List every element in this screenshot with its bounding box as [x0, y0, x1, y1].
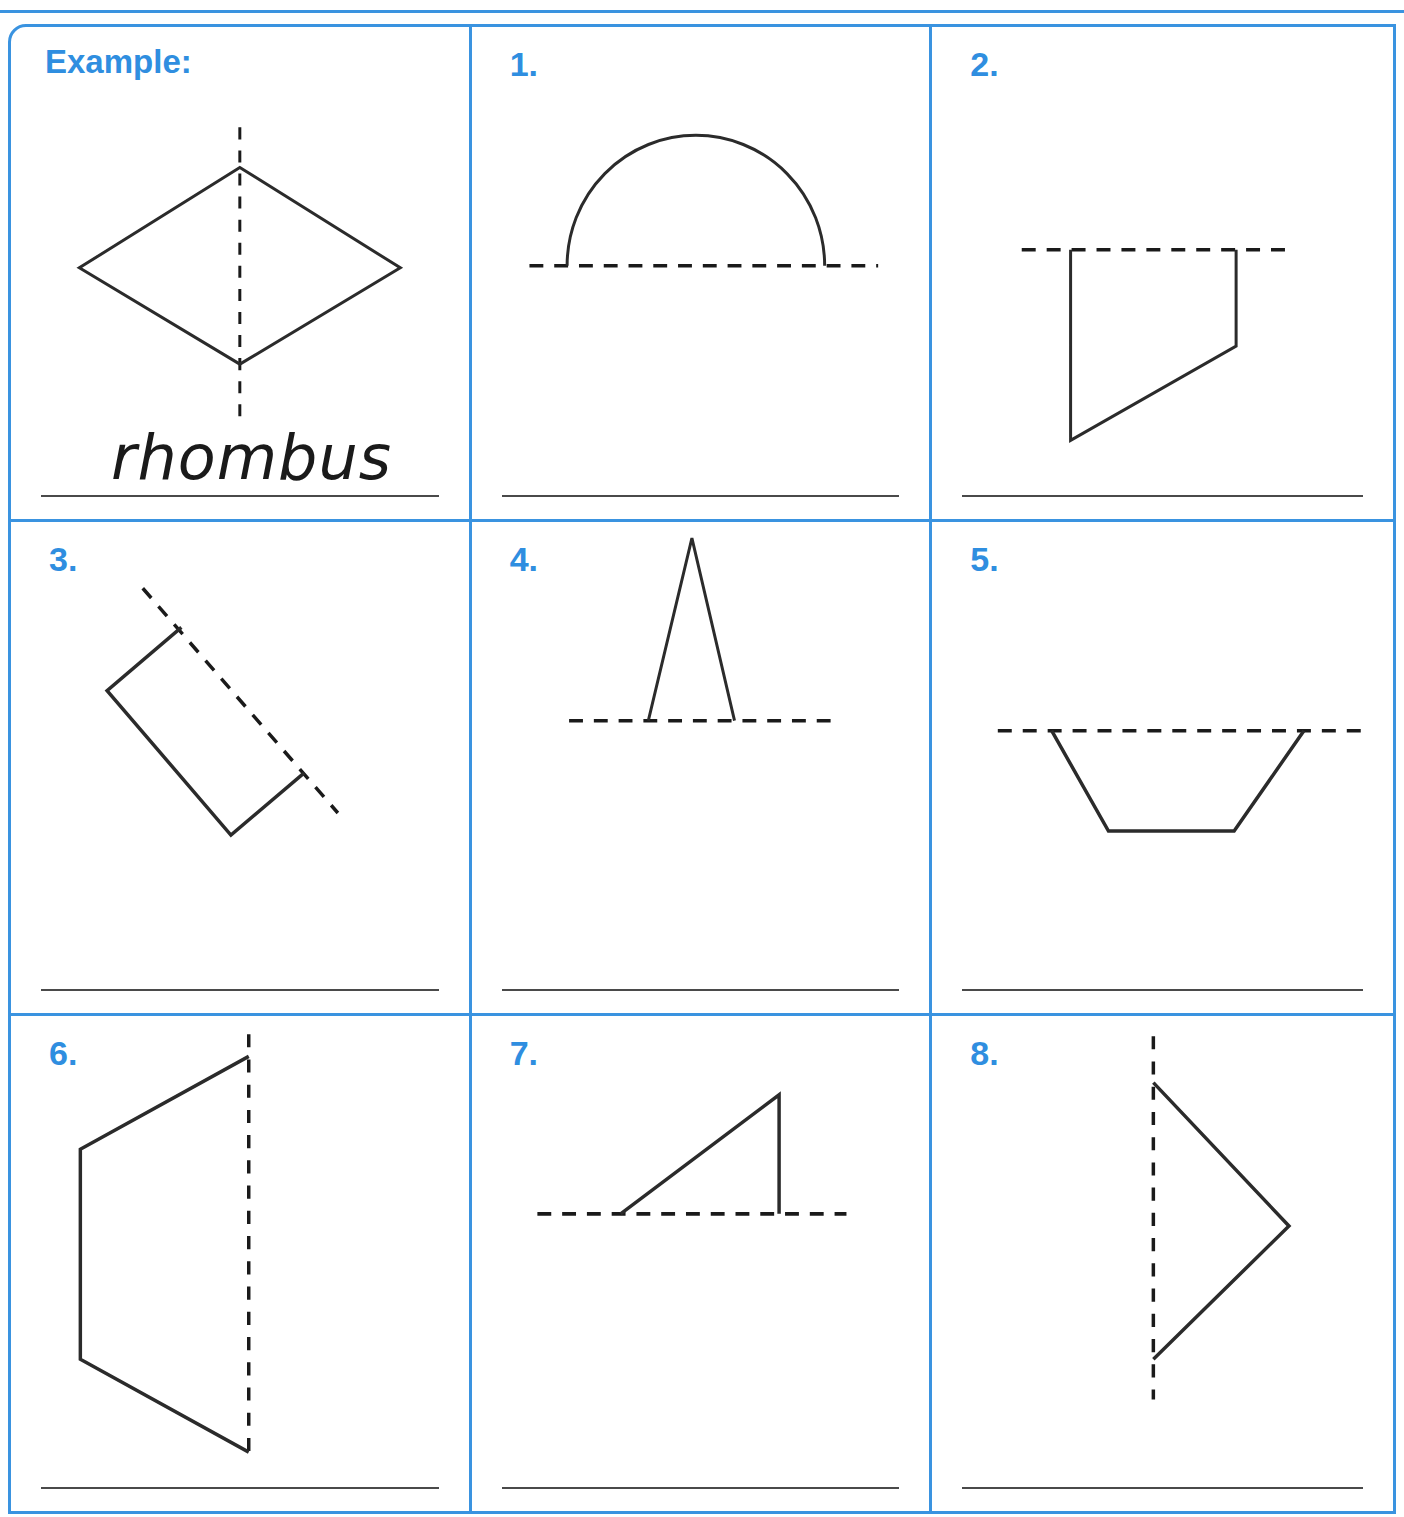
answer-line[interactable] — [502, 989, 900, 991]
shape-right-pointing-triangle — [932, 1016, 1393, 1511]
cell-label-1: 1. — [510, 45, 538, 84]
shape-svg-semicircle — [472, 27, 930, 519]
problem-cell-8[interactable]: 8. — [932, 1016, 1393, 1511]
cell-label-8: 8. — [970, 1034, 998, 1073]
shape-svg-trapezoid — [932, 522, 1393, 1014]
shape-svg-narrow-triangle — [472, 522, 930, 1014]
problem-grid: Example: rhombus 1. — [8, 24, 1396, 1514]
problem-cell-1[interactable]: 1. — [472, 27, 933, 522]
answer-line[interactable] — [41, 495, 439, 497]
cell-label-2: 2. — [970, 45, 998, 84]
shape-trapezoid — [932, 522, 1393, 1014]
cell-label-7: 7. — [510, 1034, 538, 1073]
page-top-rule — [0, 10, 1404, 13]
shape-narrow-triangle — [472, 522, 930, 1014]
answer-line[interactable] — [502, 1487, 900, 1489]
problem-cell-2[interactable]: 2. — [932, 27, 1393, 522]
problem-cell-example[interactable]: Example: rhombus — [11, 27, 472, 522]
shape-svg-half-hexagon — [11, 1016, 469, 1511]
cell-label-5: 5. — [970, 540, 998, 579]
semicircle-arc-icon — [567, 135, 825, 265]
shape-right-triangle — [472, 1016, 930, 1511]
problem-cell-6[interactable]: 6. — [11, 1016, 472, 1511]
rhombus-outline-icon — [79, 167, 400, 364]
shape-right-trapezoid — [932, 27, 1393, 519]
worksheet-page: Example: rhombus 1. — [0, 0, 1404, 1517]
cell-label-3: 3. — [49, 540, 77, 579]
narrow-triangle-outline-icon — [648, 538, 734, 721]
right-pointing-triangle-outline-icon — [1154, 1083, 1290, 1360]
example-answer-word: rhombus — [111, 427, 392, 489]
answer-line[interactable] — [502, 495, 900, 497]
problem-cell-7[interactable]: 7. — [472, 1016, 933, 1511]
answer-line[interactable] — [962, 1487, 1363, 1489]
shape-svg-right-triangle — [472, 1016, 930, 1511]
half-hexagon-outline-icon — [80, 1057, 248, 1453]
problem-cell-4[interactable]: 4. — [472, 522, 933, 1017]
cell-label-6: 6. — [49, 1034, 77, 1073]
tilted-rectangle-outline-icon — [107, 627, 304, 835]
answer-line[interactable] — [41, 989, 439, 991]
right-triangle-outline-icon — [620, 1095, 779, 1214]
shape-svg-tilted-rectangle-half — [11, 522, 469, 1014]
problem-cell-3[interactable]: 3. — [11, 522, 472, 1017]
shape-svg-right-pointing-triangle — [932, 1016, 1393, 1511]
right-trapezoid-outline-icon — [1071, 250, 1237, 441]
answer-line[interactable] — [962, 495, 1363, 497]
answer-line[interactable] — [962, 989, 1363, 991]
answer-line[interactable] — [41, 1487, 439, 1489]
symmetry-line-diagonal-icon — [143, 588, 338, 813]
shape-half-hexagon — [11, 1016, 469, 1511]
shape-tilted-rectangle-half — [11, 522, 469, 1014]
cell-label-example: Example: — [45, 43, 192, 81]
trapezoid-outline-icon — [1052, 730, 1304, 830]
cell-label-4: 4. — [510, 540, 538, 579]
problem-cell-5[interactable]: 5. — [932, 522, 1393, 1017]
shape-svg-right-trapezoid — [932, 27, 1393, 519]
shape-semicircle — [472, 27, 930, 519]
